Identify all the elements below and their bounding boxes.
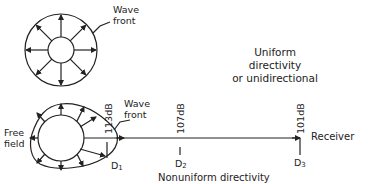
wave-diagram-graphic	[0, 0, 368, 184]
level-101db: 101dB	[295, 103, 306, 134]
wave-front-label-line1: Wave	[124, 98, 150, 109]
uniform-directivity-title: Uniform directivity or unidirectional	[215, 46, 335, 85]
inner-source-circle	[48, 37, 74, 63]
free-field-label: Free field	[4, 127, 25, 149]
uniform-source-diagram	[25, 14, 110, 86]
nonuniform-directivity-title: Nonuniform directivity	[158, 172, 270, 183]
distance-d2: D2	[175, 158, 187, 172]
wave-front-label-line2: front	[113, 15, 139, 26]
distance-d3: D3	[294, 157, 306, 171]
distance-d1: D1	[111, 160, 123, 174]
wave-front-leader-line	[93, 22, 110, 33]
wave-front-label-top: Wave front	[113, 4, 139, 26]
nonuniform-source-diagram	[30, 104, 300, 170]
receiver-label: Receiver	[311, 131, 354, 142]
wave-front-label-line1: Wave	[113, 4, 139, 15]
wave-front-label-line2: front	[124, 109, 150, 120]
title-line3: or unidirectional	[215, 72, 335, 85]
title-line2: directivity	[215, 59, 335, 72]
level-113db: 113dB	[103, 103, 114, 134]
free-field-line1: Free	[4, 127, 25, 138]
free-field-line2: field	[4, 138, 25, 149]
level-107db: 107dB	[175, 103, 186, 134]
title-line1: Uniform	[215, 46, 335, 59]
wave-front-leader-line-2	[114, 120, 130, 130]
wave-front-label-bottom: Wave front	[124, 98, 150, 120]
